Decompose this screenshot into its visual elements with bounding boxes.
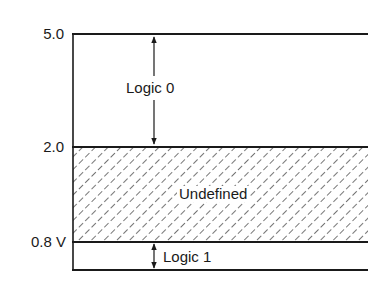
level-label-5v: 5.0	[20, 26, 64, 42]
region-label-logic1: Logic 1	[163, 249, 211, 265]
level-label-0-8v: 0.8 V	[10, 234, 66, 250]
voltage-logic-levels-diagram: 5.0 2.0 0.8 V Logic 0 Undefined Logic 1	[0, 0, 386, 294]
level-label-2v: 2.0	[20, 139, 64, 155]
region-label-undefined: Undefined	[177, 186, 249, 202]
region-label-logic0: Logic 0	[126, 80, 174, 96]
